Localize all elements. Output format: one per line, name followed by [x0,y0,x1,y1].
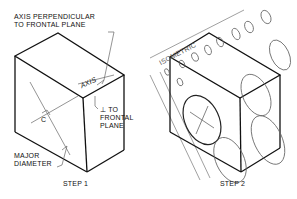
label-line: FRONTAL [100,114,134,122]
label-major-diameter: MAJOR DIAMETER [14,152,52,168]
label-line: ⊥ TO [100,106,134,114]
caption-step-1: STEP 1 [63,180,88,188]
label-line: PLANE [100,122,134,130]
label-axis-perpendicular: AXIS PERPENDICULAR TO FRONTAL PLANE [14,13,95,29]
caption-step-2: STEP 2 [220,180,245,188]
label-line: MAJOR [14,152,52,160]
label-c: C [41,116,46,124]
label-line: DIAMETER [14,160,52,168]
step2-template-ellipses [164,9,295,188]
label-line: TO FRONTAL PLANE [14,21,95,29]
drawing-canvas [0,0,297,199]
label-line: AXIS PERPENDICULAR [14,13,95,21]
label-perpendicular-to-frontal: ⊥ TO FRONTAL PLANE [100,106,134,130]
